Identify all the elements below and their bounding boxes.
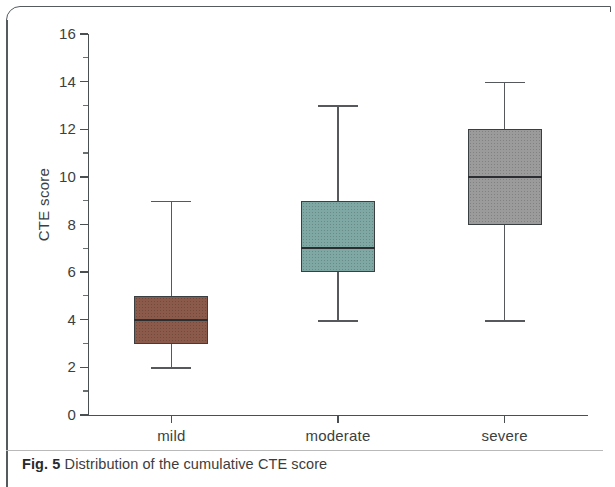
y-tick-minor — [83, 295, 88, 296]
y-tick-minor — [83, 200, 88, 201]
whisker-cap-upper — [485, 82, 525, 84]
y-tick-minor — [83, 248, 88, 249]
y-axis-line — [88, 34, 89, 416]
y-tick-label: 16 — [36, 25, 76, 42]
caption-divider — [6, 450, 603, 451]
x-tick — [504, 415, 505, 423]
box-plot-chart: 0246810121416 mildmoderatesevere CTE sco… — [0, 0, 603, 450]
whisker-lower — [337, 272, 339, 320]
y-tick-minor — [83, 390, 88, 391]
median-line — [468, 176, 542, 178]
y-tick-major — [80, 176, 88, 177]
whisker-cap-lower — [151, 367, 191, 369]
y-tick-minor — [83, 105, 88, 106]
y-tick-label: 0 — [36, 406, 76, 423]
box-body — [301, 201, 375, 272]
y-axis-title: CTE score — [35, 145, 52, 265]
whisker-upper — [171, 201, 173, 296]
box-texture — [302, 202, 374, 271]
y-tick-major — [80, 271, 88, 272]
whisker-cap-lower — [318, 320, 358, 322]
x-tick-label-moderate: moderate — [268, 427, 408, 444]
y-tick-major — [80, 414, 88, 415]
y-tick-major — [80, 33, 88, 34]
y-tick-label: 6 — [36, 263, 76, 280]
whisker-upper — [504, 82, 506, 130]
y-tick-major — [80, 81, 88, 82]
figure-caption: Fig. 5 Distribution of the cumulative CT… — [22, 456, 592, 472]
y-tick-label: 2 — [36, 358, 76, 375]
whisker-cap-upper — [318, 105, 358, 107]
y-tick-major — [80, 319, 88, 320]
whisker-upper — [337, 105, 339, 200]
figure-caption-text: Distribution of the cumulative CTE score — [60, 456, 327, 472]
whisker-cap-lower — [485, 320, 525, 322]
y-tick-minor — [83, 343, 88, 344]
y-tick-label: 14 — [36, 73, 76, 90]
y-tick-minor — [83, 57, 88, 58]
y-tick-minor — [83, 152, 88, 153]
y-tick-major — [80, 129, 88, 130]
x-tick-label-mild: mild — [101, 427, 241, 444]
x-tick — [171, 415, 172, 423]
median-line — [134, 319, 208, 321]
y-tick-label: 12 — [36, 120, 76, 137]
x-tick-label-severe: severe — [435, 427, 575, 444]
figure-number: Fig. 5 — [22, 456, 60, 472]
x-tick — [337, 415, 338, 423]
whisker-lower — [171, 344, 173, 368]
y-tick-major — [80, 367, 88, 368]
whisker-cap-upper — [151, 201, 191, 203]
y-tick-major — [80, 224, 88, 225]
y-tick-label: 4 — [36, 311, 76, 328]
median-line — [301, 247, 375, 249]
whisker-lower — [504, 225, 506, 320]
